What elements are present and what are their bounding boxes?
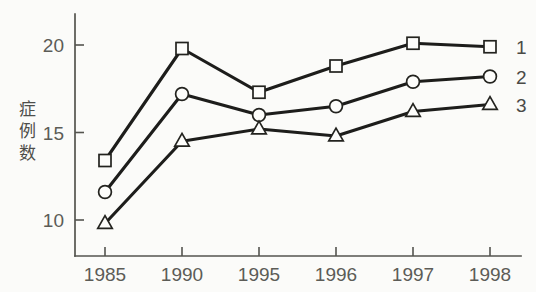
line-chart: 101520 198519901995199619971998 123 症例数 — [0, 0, 536, 292]
chart-canvas: 101520 198519901995199619971998 123 症例数 — [0, 0, 536, 292]
data-point-circle — [484, 70, 497, 83]
x-tick-label: 1998 — [469, 264, 511, 285]
y-axis-title: 症例数 — [19, 99, 36, 163]
y-tick-label: 15 — [43, 123, 64, 144]
x-tick-label: 1990 — [161, 264, 203, 285]
x-tick-label: 1985 — [84, 264, 126, 285]
y-axis-ticks — [75, 45, 84, 220]
series-line-2 — [105, 77, 490, 193]
y-axis-title-char: 数 — [19, 143, 36, 163]
series-lines — [105, 43, 490, 223]
series-line-1 — [105, 43, 490, 160]
y-axis-title-char: 症 — [19, 99, 36, 119]
data-point-circle — [176, 88, 189, 101]
legend-labels: 123 — [516, 37, 527, 116]
x-axis-ticks — [105, 247, 490, 256]
data-point-circle — [253, 109, 266, 122]
data-point-circle — [407, 75, 420, 88]
x-tick-label: 1996 — [315, 264, 357, 285]
legend-label-2: 2 — [516, 67, 527, 88]
data-point-square — [484, 41, 496, 53]
data-point-triangle — [252, 121, 267, 134]
data-point-square — [330, 60, 342, 72]
y-axis-tick-labels: 101520 — [43, 35, 64, 231]
data-point-square — [176, 43, 188, 55]
y-tick-label: 20 — [43, 35, 64, 56]
y-tick-label: 10 — [43, 210, 64, 231]
legend-label-3: 3 — [516, 95, 527, 116]
data-point-circle — [330, 100, 343, 113]
x-tick-label: 1995 — [238, 264, 280, 285]
data-point-triangle — [483, 97, 498, 110]
data-point-square — [253, 86, 265, 98]
x-tick-label: 1997 — [392, 264, 434, 285]
series-line-3 — [105, 105, 490, 224]
x-axis-tick-labels: 198519901995199619971998 — [84, 264, 511, 285]
data-point-square — [99, 155, 111, 167]
data-point-circle — [99, 186, 112, 199]
y-axis-title-char: 例 — [19, 121, 36, 141]
legend-label-1: 1 — [516, 37, 527, 58]
data-point-square — [407, 37, 419, 49]
